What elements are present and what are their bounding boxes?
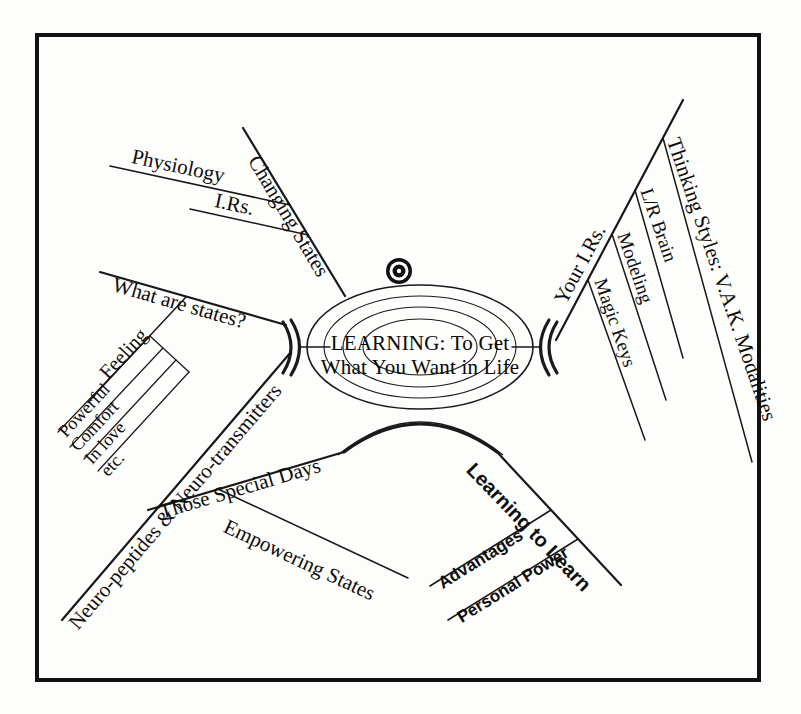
eye-icon (386, 258, 412, 284)
right-crescent-connector-outer (549, 322, 557, 373)
center-line-1: LEARNING: To Get (310, 332, 530, 356)
center-line-2: What You Want in Life (310, 356, 530, 380)
bottom-arc-handle (338, 422, 503, 455)
center-node-title: LEARNING: To Get What You Want in Life (310, 332, 530, 379)
mind-map-canvas: LEARNING: To Get What You Want in Life C… (0, 0, 801, 714)
left-crescent-connector-outer (283, 322, 291, 373)
